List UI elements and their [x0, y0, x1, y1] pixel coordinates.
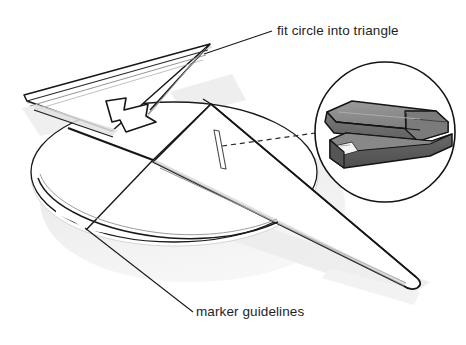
label-marker-guidelines: marker guidelines [196, 305, 304, 319]
stapler-detail-inset [315, 62, 455, 202]
origami-diagram-svg [0, 0, 466, 345]
illustration-canvas: fit circle into triangle marker guidelin… [0, 0, 466, 345]
label-fit-circle-into-triangle: fit circle into triangle [277, 24, 399, 38]
leader-line-fit-circle [204, 31, 272, 54]
